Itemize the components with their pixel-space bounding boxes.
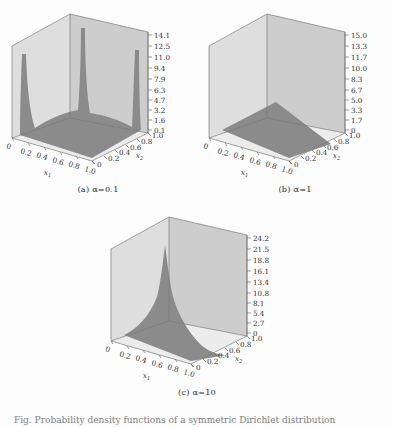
- x2-tick-a-2: 0.6: [130, 143, 142, 152]
- x1-axis-sub-b: 1: [245, 172, 248, 178]
- panel-b: 15.0 13.3 11.7 10.0 8.3 6.7 5.0 3.3 1.7 …: [197, 2, 393, 198]
- x1-tick-b-3: 0.6: [248, 155, 262, 167]
- plot-b: 15.0 13.3 11.7 10.0 8.3 6.7 5.0 3.3 1.7 …: [197, 2, 393, 182]
- z-tick-c-5: 10.8: [253, 289, 269, 298]
- z-axis-b: 15.0 13.3 11.7 10.0 8.3 6.7 5.0 3.3 1.7 …: [345, 31, 367, 135]
- panel-b-caption: (b) α=1: [197, 184, 393, 194]
- x1-tick-a-5: 1.0: [83, 164, 97, 176]
- z-tick-b-5: 6.7: [351, 86, 363, 95]
- x2-axis-sub-c: 2: [238, 358, 242, 364]
- x1-tick-a-1: 0.2: [19, 146, 32, 158]
- plot-c-svg: 24.2 21.5 18.8 16.1 13.4 10.8 8.1 5.4 2.…: [99, 205, 295, 385]
- x2-axis-sub-a: 2: [139, 155, 143, 161]
- x2-tick-c-0: 1.0: [251, 334, 263, 343]
- x2-tick-a-3: 0.4: [119, 148, 131, 157]
- x2-tick-b-4: 0.2: [305, 154, 316, 163]
- z-tick-c-4: 13.4: [253, 278, 269, 287]
- x1-tick-c-3: 0.6: [150, 358, 164, 370]
- z-tick-a-4: 7.9: [154, 75, 166, 84]
- x1-axis-sub-a: 1: [48, 172, 51, 178]
- x1-tick-b-2: 0.4: [232, 150, 246, 162]
- z-tick-b-1: 13.3: [351, 42, 367, 51]
- z-tick-b-7: 3.3: [351, 106, 363, 115]
- z-axis-a: 14.1 12.5 11.0 9.4 7.9 6.3 4.7 3.2 1.6 0…: [148, 31, 170, 135]
- x1-tick-a-4: 0.8: [67, 159, 81, 171]
- z-tick-a-5: 6.3: [154, 86, 166, 95]
- z-tick-c-0: 24.2: [253, 234, 269, 243]
- plot-b-svg: 15.0 13.3 11.7 10.0 8.3 6.7 5.0 3.3 1.7 …: [197, 2, 393, 182]
- x1-tick-b-4: 0.8: [264, 159, 278, 171]
- z-tick-c-1: 21.5: [253, 245, 269, 254]
- x1-tick-c-0: 0: [104, 344, 111, 354]
- x1-axis-sub-c: 1: [147, 375, 150, 381]
- x1-tick-b-1: 0.2: [216, 146, 229, 158]
- x1-tick-a-0: 0: [5, 141, 12, 151]
- figure-dirichlet-densities: 14.1 12.5 11.0 9.4 7.9 6.3 4.7 3.2 1.6 0…: [0, 0, 393, 427]
- z-tick-b-0: 15.0: [351, 31, 367, 40]
- x1-tick-b-0: 0: [202, 141, 209, 151]
- x2-tick-b-3: 0.4: [316, 148, 328, 157]
- x2-tick-b-1: 0.8: [338, 137, 350, 146]
- z-tick-a-7: 3.2: [154, 106, 165, 115]
- x1-tick-a-3: 0.6: [51, 155, 65, 167]
- z-tick-b-2: 11.7: [351, 53, 367, 62]
- x2-tick-c-5: 0: [196, 363, 201, 372]
- plot-a-svg: 14.1 12.5 11.0 9.4 7.9 6.3 4.7 3.2 1.6 0…: [0, 2, 196, 182]
- z-axis-c: 24.2 21.5 18.8 16.1 13.4 10.8 8.1 5.4 2.…: [247, 234, 269, 338]
- x2-axis-sub-b: 2: [336, 155, 340, 161]
- plot-c: 24.2 21.5 18.8 16.1 13.4 10.8 8.1 5.4 2.…: [99, 205, 295, 385]
- z-tick-b-4: 8.3: [351, 75, 363, 84]
- z-tick-b-6: 5.0: [351, 96, 363, 105]
- z-tick-c-6: 8.1: [253, 299, 264, 308]
- panel-c: 24.2 21.5 18.8 16.1 13.4 10.8 8.1 5.4 2.…: [99, 205, 295, 401]
- x2-tick-a-4: 0.2: [108, 154, 119, 163]
- z-tick-b-3: 10.0: [351, 64, 367, 73]
- z-tick-a-0: 14.1: [154, 31, 170, 40]
- z-tick-a-1: 12.5: [154, 42, 170, 51]
- figure-bottom-caption: Fig. Probability density functions of a …: [14, 414, 383, 426]
- z-tick-a-3: 9.4: [154, 64, 166, 73]
- z-tick-a-8: 1.6: [154, 116, 166, 125]
- z-tick-c-8: 2.7: [253, 319, 265, 328]
- z-tick-c-3: 16.1: [253, 267, 269, 276]
- x2-tick-a-1: 0.8: [141, 137, 153, 146]
- x2-tick-b-5: 0: [294, 160, 299, 169]
- z-tick-b-8: 1.7: [351, 116, 363, 125]
- x1-tick-c-4: 0.8: [166, 362, 180, 374]
- x2-tick-c-4: 0.2: [207, 357, 218, 366]
- x2-tick-c-3: 0.4: [218, 351, 230, 360]
- x2-tick-b-0: 1.0: [349, 131, 361, 140]
- x1-tick-a-2: 0.4: [35, 150, 49, 162]
- z-tick-c-2: 18.8: [253, 256, 269, 265]
- z-tick-c-7: 5.4: [253, 309, 265, 318]
- x1-tick-c-1: 0.2: [118, 349, 131, 361]
- x2-tick-c-2: 0.6: [229, 346, 241, 355]
- panel-c-caption: (c) α=10: [99, 387, 295, 397]
- z-tick-a-6: 4.7: [154, 96, 166, 105]
- x1-tick-b-5: 1.0: [280, 164, 294, 176]
- plot-a: 14.1 12.5 11.0 9.4 7.9 6.3 4.7 3.2 1.6 0…: [0, 2, 196, 182]
- x2-tick-b-2: 0.6: [327, 143, 339, 152]
- x1-tick-c-2: 0.4: [134, 353, 148, 365]
- z-tick-a-2: 11.0: [154, 53, 170, 62]
- x2-tick-a-5: 0: [97, 160, 102, 169]
- x2-tick-a-0: 1.0: [152, 131, 164, 140]
- x2-tick-c-1: 0.8: [240, 340, 252, 349]
- x1-tick-c-5: 1.0: [182, 367, 196, 379]
- panel-a-caption: (a) α=0.1: [0, 184, 196, 194]
- panel-a: 14.1 12.5 11.0 9.4 7.9 6.3 4.7 3.2 1.6 0…: [0, 2, 196, 198]
